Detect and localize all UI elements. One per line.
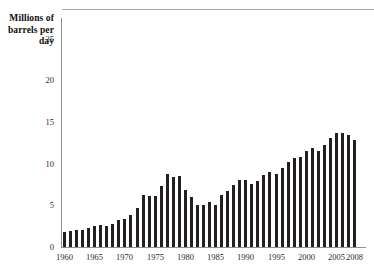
bar [335, 133, 338, 247]
bar [341, 133, 344, 247]
bar [232, 185, 235, 247]
bar [129, 215, 132, 247]
x-tick-label: 1965 [82, 252, 108, 262]
y-tick-label: 10 [26, 159, 54, 169]
x-tick-label: 1990 [233, 252, 259, 262]
bar [142, 195, 145, 247]
x-tick-label: 2008 [342, 252, 368, 262]
x-tick-label: 1970 [112, 252, 138, 262]
x-tick-label: 1985 [203, 252, 229, 262]
bar [226, 191, 229, 247]
x-tick-label: 1975 [143, 252, 169, 262]
y-tick-label: 20 [26, 75, 54, 85]
bar [99, 225, 102, 247]
x-tick-label: 1995 [264, 252, 290, 262]
bar [117, 220, 120, 247]
bar [214, 205, 217, 247]
bar [262, 175, 265, 247]
bar [208, 202, 211, 247]
bar [184, 190, 187, 247]
bar [250, 184, 253, 247]
x-axis-line [61, 247, 366, 248]
bar [317, 151, 320, 247]
oil-imports-bar-chart: Millions of barrels per day 0510152025 1… [0, 0, 374, 274]
bar [293, 158, 296, 247]
bars-group [62, 18, 366, 247]
bar [202, 205, 205, 247]
bar [299, 157, 302, 247]
bar [311, 148, 314, 247]
bar [160, 186, 163, 247]
bar [63, 232, 66, 247]
bar [111, 224, 114, 247]
bar [268, 172, 271, 247]
bar [154, 196, 157, 247]
bar [166, 174, 169, 247]
plot-area [62, 18, 366, 247]
bar [275, 174, 278, 247]
bar [353, 140, 356, 247]
bar [190, 197, 193, 247]
bar [87, 228, 90, 247]
bar [75, 230, 78, 247]
bar [123, 219, 126, 247]
bar [196, 205, 199, 247]
x-tick-label: 1960 [52, 252, 78, 262]
top-divider-rule [62, 9, 374, 10]
bar [220, 195, 223, 247]
x-tick-label: 2000 [294, 252, 320, 262]
bar [93, 226, 96, 247]
y-tick-label: 15 [26, 117, 54, 127]
bar [281, 168, 284, 247]
bar [323, 145, 326, 247]
bar [256, 181, 259, 247]
y-tick-label: 0 [26, 242, 54, 252]
bar [148, 196, 151, 247]
x-tick-label: 1980 [173, 252, 199, 262]
y-tick-label: 5 [26, 200, 54, 210]
bar [81, 230, 84, 247]
bar [244, 180, 247, 247]
bar [347, 135, 350, 247]
bar [172, 177, 175, 247]
bar [69, 231, 72, 247]
bar [105, 226, 108, 247]
bar [287, 162, 290, 247]
bar [178, 176, 181, 247]
bar [329, 138, 332, 247]
bar [305, 151, 308, 247]
bar [238, 180, 241, 247]
y-tick-label: 25 [26, 34, 54, 44]
bar [136, 208, 139, 247]
